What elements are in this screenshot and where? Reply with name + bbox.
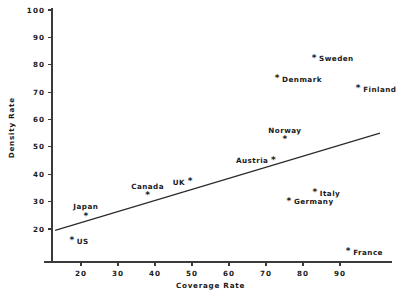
data-point-sweden[interactable]: *Sweden xyxy=(312,53,354,64)
x-tick-label: 40 xyxy=(149,269,161,278)
x-tick-label: 90 xyxy=(334,269,346,278)
data-point-marker: * xyxy=(356,83,361,93)
data-point-marker: * xyxy=(69,235,74,245)
y-tick-label: 90 xyxy=(33,33,45,42)
y-tick-label: 100 xyxy=(27,6,45,15)
x-tick-label: 20 xyxy=(75,269,87,278)
data-point-italy[interactable]: *Italy xyxy=(312,187,340,198)
data-point-label: France xyxy=(353,248,383,257)
y-tick-label: 20 xyxy=(33,225,45,234)
data-point-marker: * xyxy=(312,53,317,63)
y-tick-label: 50 xyxy=(33,142,45,151)
data-point-label: Austria xyxy=(236,156,268,165)
y-tick-label: 30 xyxy=(33,197,45,206)
x-tick-label: 60 xyxy=(223,269,235,278)
data-point-label: Germany xyxy=(294,197,334,206)
y-tick-label: 80 xyxy=(33,60,45,69)
data-point-label: Norway xyxy=(268,126,301,135)
x-axis-title: Coverage Rate xyxy=(176,281,245,290)
data-point-norway[interactable]: *Norway xyxy=(268,126,301,145)
data-point-france[interactable]: *France xyxy=(346,246,383,257)
data-point-label: Finland xyxy=(363,85,396,94)
data-point-marker: * xyxy=(275,73,280,83)
data-point-marker: * xyxy=(145,190,150,200)
x-tick-label: 50 xyxy=(186,269,198,278)
x-tick-label: 30 xyxy=(112,269,124,278)
plot-canvas: 20304050607080901002030405060708090Cover… xyxy=(0,0,399,296)
data-point-label: Canada xyxy=(131,182,164,191)
data-point-label: Denmark xyxy=(282,75,322,84)
data-point-canada[interactable]: *Canada xyxy=(131,182,164,201)
data-point-label: Japan xyxy=(72,202,98,211)
y-tick-label: 60 xyxy=(33,115,45,124)
data-point-marker: * xyxy=(346,246,351,256)
x-tick-label: 80 xyxy=(297,269,309,278)
x-tick-label: 70 xyxy=(260,269,272,278)
data-point-finland[interactable]: *Finland xyxy=(356,83,397,94)
y-axis-title: Density Rate xyxy=(7,97,16,158)
data-point-marker: * xyxy=(312,187,317,197)
y-tick-label: 70 xyxy=(33,88,45,97)
data-point-marker: * xyxy=(271,155,276,165)
data-point-denmark[interactable]: *Denmark xyxy=(275,73,322,84)
data-point-label: Italy xyxy=(320,189,340,198)
data-point-uk[interactable]: *UK xyxy=(173,176,193,187)
data-point-marker: * xyxy=(287,196,292,206)
y-tick-label: 40 xyxy=(33,170,45,179)
scatter-plot-figure: 20304050607080901002030405060708090Cover… xyxy=(0,0,399,296)
data-point-label: US xyxy=(77,237,89,246)
data-point-marker: * xyxy=(283,134,288,144)
data-point-marker: * xyxy=(83,211,88,221)
data-point-austria[interactable]: *Austria xyxy=(236,155,276,166)
data-point-marker: * xyxy=(188,176,193,186)
data-point-label: UK xyxy=(173,178,185,187)
data-point-us[interactable]: *US xyxy=(69,235,88,246)
data-point-label: Sweden xyxy=(319,54,354,63)
regression-line xyxy=(55,133,380,230)
data-point-japan[interactable]: *Japan xyxy=(72,202,98,221)
